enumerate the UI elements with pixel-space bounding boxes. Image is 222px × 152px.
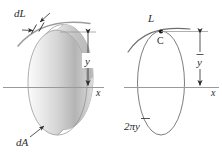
dL-label: dL bbox=[14, 7, 26, 19]
right-ybar-label: y bbox=[196, 56, 202, 68]
dA-element: dA bbox=[16, 126, 44, 148]
circumference-label-group: 2πy bbox=[124, 119, 150, 133]
left-figure-group: x dL dA y bbox=[3, 7, 104, 148]
left-x-axis-label: x bbox=[95, 87, 101, 98]
right-x-axis-label: x bbox=[210, 87, 216, 98]
centroid-path-ellipse bbox=[138, 31, 185, 135]
dL-arrow-upper bbox=[40, 13, 50, 22]
circumference-label: 2πy bbox=[124, 120, 140, 132]
left-y-label: y bbox=[84, 55, 90, 67]
ribbon-band bbox=[28, 25, 93, 136]
dL-arrow-lower bbox=[22, 30, 33, 31]
dA-label: dA bbox=[16, 136, 29, 148]
centroid-label: C bbox=[157, 35, 164, 46]
curve-L-label: L bbox=[147, 12, 154, 24]
figure-root: x dL dA y bbox=[0, 0, 222, 152]
right-figure-group: x L C y 2πy bbox=[124, 12, 219, 135]
dL-element: dL bbox=[14, 7, 50, 34]
pappus-figure-svg: x dL dA y bbox=[0, 0, 222, 152]
dA-leader-line bbox=[30, 126, 44, 137]
